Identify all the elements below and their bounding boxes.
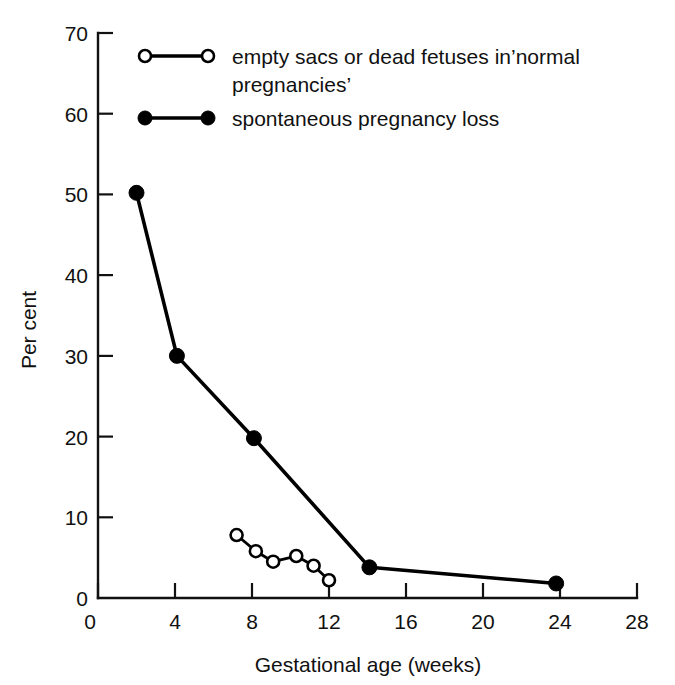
data-point-open-circle [250,545,262,557]
data-point-filled-circle [246,431,261,446]
x-tick-label-0: 0 [84,610,96,633]
x-tick-label-16: 16 [394,610,417,633]
series-line [237,535,329,580]
series-line [137,193,557,584]
y-tick-label-70: 70 [65,22,88,45]
legend-entry-empty-sacs: empty sacs or dead fetuses in’normal pre… [139,45,580,96]
legend-entry-spontaneous-loss: spontaneous pregnancy loss [138,107,499,130]
x-tick-label-8: 8 [246,610,258,633]
data-point-open-circle [231,529,243,541]
y-axis-ticks [98,33,113,517]
data-point-open-circle [308,560,320,572]
data-point-filled-circle [169,348,184,363]
y-tick-label-10: 10 [65,506,88,529]
x-tick-label-24: 24 [548,610,572,633]
data-point-filled-circle [362,560,377,575]
data-point-filled-circle [549,576,564,591]
legend-label-empty-sacs-line1: empty sacs or dead fetuses in’normal [232,45,580,68]
x-tick-label-20: 20 [471,610,494,633]
chart-canvas: 70 60 50 40 30 20 10 0 Per cent 0 4 8 [0,0,675,685]
legend-label-empty-sacs-line2: pregnancies’ [232,73,351,96]
x-tick-label-12: 12 [317,610,340,633]
legend: empty sacs or dead fetuses in’normal pre… [138,45,580,130]
data-point-open-circle [323,574,335,586]
legend-filled-circle-icon-left [138,111,152,125]
y-tick-label-20: 20 [65,426,88,449]
x-tick-label-4: 4 [169,610,181,633]
y-axis-tick-labels: 70 60 50 40 30 20 10 0 [65,22,88,610]
data-series-layer [129,185,564,591]
chart-figure: 70 60 50 40 30 20 10 0 Per cent 0 4 8 [0,0,675,685]
data-point-open-circle [290,550,302,562]
series-spontaneous-loss [129,185,564,591]
y-tick-label-60: 60 [65,103,88,126]
legend-filled-circle-icon-right [201,111,215,125]
x-tick-label-28: 28 [625,610,648,633]
legend-label-spontaneous-loss: spontaneous pregnancy loss [232,107,499,130]
series-empty-sacs [231,529,335,586]
y-tick-label-50: 50 [65,183,88,206]
x-axis-tick-labels: 0 4 8 12 16 20 24 28 [84,610,649,633]
data-point-filled-circle [129,185,144,200]
y-tick-label-40: 40 [65,264,88,287]
y-tick-label-30: 30 [65,345,88,368]
y-axis-title: Per cent [17,291,40,369]
y-tick-label-0: 0 [76,587,88,610]
x-axis-title: Gestational age (weeks) [255,653,481,676]
legend-open-circle-icon-right [202,50,214,62]
legend-open-circle-icon-left [139,50,151,62]
data-point-open-circle [267,556,279,568]
